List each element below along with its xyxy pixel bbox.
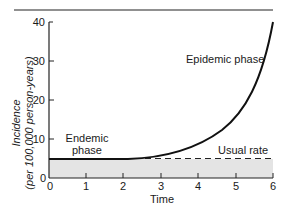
svg-text:1: 1 xyxy=(83,180,89,192)
epidemic-phase-label: Epidemic phase xyxy=(186,53,264,65)
endemic-label: Endemic xyxy=(66,132,109,144)
endemic-phase-label: phase xyxy=(72,144,102,156)
x-axis-label: Time xyxy=(150,193,174,205)
svg-text:0: 0 xyxy=(40,172,46,184)
svg-text:4: 4 xyxy=(195,180,201,192)
svg-text:0: 0 xyxy=(47,180,53,192)
incidence-chart: 40 30 20 10 0 0 1 2 3 4 5 6 E xyxy=(0,0,291,218)
y-axis-label: Incidence (per 100,000 person-years) xyxy=(10,56,35,190)
svg-text:6: 6 xyxy=(270,180,276,192)
svg-text:5: 5 xyxy=(233,180,239,192)
svg-text:(per 100,000 person-years): (per 100,000 person-years) xyxy=(23,56,35,190)
y-ticks xyxy=(49,22,54,139)
svg-text:3: 3 xyxy=(158,180,164,192)
svg-text:40: 40 xyxy=(33,16,45,28)
svg-text:2: 2 xyxy=(120,180,126,192)
x-tick-labels: 0 1 2 3 4 5 6 xyxy=(47,180,276,192)
svg-text:Incidence: Incidence xyxy=(10,99,22,146)
usual-rate-label: Usual rate xyxy=(218,144,268,156)
